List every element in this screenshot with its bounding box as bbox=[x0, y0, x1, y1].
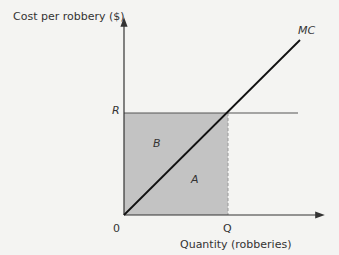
curve-label: MC bbox=[298, 24, 315, 37]
price-label: R bbox=[112, 104, 120, 117]
x-axis-label: Quantity (robberies) bbox=[180, 238, 291, 251]
y-axis-label: Cost per robbery ($) bbox=[13, 10, 125, 23]
mc-diagram bbox=[0, 0, 339, 255]
area-b-label: B bbox=[153, 137, 161, 150]
area-a-label: A bbox=[191, 173, 199, 186]
origin-label: 0 bbox=[113, 222, 120, 235]
quantity-label: Q bbox=[223, 222, 232, 235]
